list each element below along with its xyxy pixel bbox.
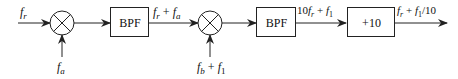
mixer1-icon [50, 11, 74, 35]
bpf1-output-label: fr + fa [153, 6, 180, 21]
mixer2-icon [198, 11, 222, 35]
bpf1-label: BPF [111, 17, 149, 29]
input-fa-label: fa [57, 61, 65, 76]
bpf2-output-label: 10fr + f1 [297, 5, 333, 19]
block-diagram [0, 0, 458, 79]
divider-label: +10 [348, 17, 395, 29]
input-fr-label: fr [20, 6, 27, 21]
bpf2-label: BPF [257, 17, 296, 29]
input-fb-f1-label: fb + f1 [197, 61, 225, 76]
output-label: fr + f1/10 [397, 5, 436, 19]
